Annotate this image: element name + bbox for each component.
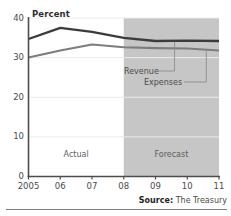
- y-tick-20: 20: [0, 92, 24, 102]
- series-label-revenue: Revenue: [124, 67, 159, 76]
- region-label-forecast: Forecast: [131, 150, 211, 159]
- region-label-actual: Actual: [36, 150, 116, 159]
- x-tick-2005: 2005: [16, 181, 42, 191]
- y-tick-10: 10: [0, 131, 24, 141]
- source-note: Source: The Treasury: [139, 196, 227, 205]
- source-value: The Treasury: [173, 196, 227, 205]
- x-tick-06: 06: [47, 181, 73, 191]
- x-tick-07: 07: [79, 181, 105, 191]
- y-tick-0: 0: [0, 171, 24, 181]
- chart-figure: Percent 010203040 2005060708091011 Actua…: [0, 0, 231, 216]
- x-tick-11: 11: [206, 181, 231, 191]
- x-tick-10: 10: [174, 181, 200, 191]
- x-tick-09: 09: [143, 181, 169, 191]
- series-label-expenses: Expenses: [144, 78, 182, 87]
- x-tick-08: 08: [111, 181, 137, 191]
- bottom-rule: [6, 209, 227, 210]
- y-tick-30: 30: [0, 52, 24, 62]
- source-prefix: Source:: [139, 196, 173, 205]
- y-tick-40: 40: [0, 13, 24, 23]
